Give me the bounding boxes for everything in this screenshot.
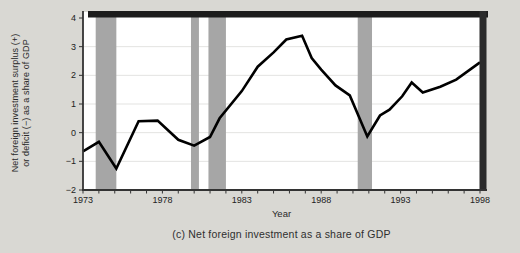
- frame-top-bar: [88, 11, 488, 18]
- x-axis-title: Year: [83, 208, 480, 219]
- y-axis-title-line1: Net foreign investment surplus (+): [10, 12, 21, 194]
- net-foreign-investment-figure: 19731978198319881993199843210−1−2 Net fo…: [0, 0, 520, 253]
- y-tick-label: 3: [71, 42, 76, 52]
- recession-band: [208, 13, 225, 190]
- y-tick-label: 2: [71, 70, 76, 80]
- recession-band: [358, 13, 372, 190]
- x-tick-label: 1993: [391, 195, 411, 205]
- y-tick-label: −1: [66, 156, 76, 166]
- frame-right-bar: [480, 11, 487, 189]
- x-tick-label: 1983: [232, 195, 252, 205]
- y-tick-label: −2: [66, 185, 76, 195]
- plot-background: [83, 12, 480, 190]
- x-tick-label: 1998: [470, 195, 490, 205]
- y-axis-title-line2: or deficit (−) as a share of GDP: [21, 12, 32, 194]
- x-tick-label: 1988: [311, 195, 331, 205]
- recession-band: [191, 13, 199, 190]
- y-tick-label: 0: [71, 128, 76, 138]
- x-tick-label: 1973: [73, 195, 93, 205]
- y-tick-label: 4: [71, 13, 76, 23]
- x-tick-label: 1978: [152, 195, 172, 205]
- y-tick-label: 1: [71, 99, 76, 109]
- figure-caption: (c) Net foreign investment as a share of…: [63, 228, 500, 240]
- y-axis-title: Net foreign investment surplus (+) or de…: [10, 12, 32, 194]
